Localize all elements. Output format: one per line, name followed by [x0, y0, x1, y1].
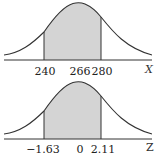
- normal-distribution-figure: 240 266 280 X −1.63 0 2.11 Z: [0, 0, 158, 157]
- tick-label-neg-1-63: −1.63: [26, 144, 60, 156]
- tick-label-2-11: 2.11: [91, 144, 116, 156]
- x-axis-label: X: [145, 64, 153, 76]
- tick-label-266: 266: [70, 66, 91, 78]
- tick-label-0: 0: [77, 144, 84, 156]
- top-normal-curve: [4, 3, 152, 60]
- bottom-normal-curve: [4, 82, 152, 139]
- z-axis-label: Z: [146, 142, 154, 154]
- tick-label-240: 240: [35, 66, 56, 78]
- curves-graphic: [0, 0, 158, 157]
- tick-label-280: 280: [92, 66, 113, 78]
